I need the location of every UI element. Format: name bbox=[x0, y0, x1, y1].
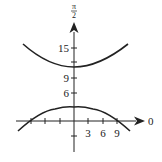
x-tick-label-9: 9 bbox=[114, 127, 120, 139]
y-axis-arrow-icon bbox=[70, 22, 79, 33]
y-tick-label-15: 15 bbox=[58, 42, 70, 54]
y-axis-label-numerator: π bbox=[72, 2, 76, 11]
polar-graph: 0 π 2 15 9 6 3 6 9 bbox=[0, 0, 162, 162]
y-tick-label-6: 6 bbox=[64, 87, 70, 99]
upper-curve bbox=[23, 44, 128, 67]
x-axis-label: 0 bbox=[148, 115, 154, 127]
x-tick-label-3: 3 bbox=[85, 127, 91, 139]
y-tick-label-9: 9 bbox=[64, 72, 70, 84]
y-axis-label-denominator: 2 bbox=[72, 11, 76, 20]
x-tick-label-6: 6 bbox=[100, 127, 106, 139]
